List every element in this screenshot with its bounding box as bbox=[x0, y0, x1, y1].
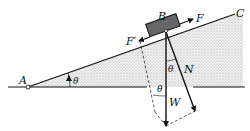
incline-diagram: A C B F F′ N W θ θ θ bbox=[0, 0, 250, 131]
dashed-component-line-3 bbox=[155, 112, 166, 126]
friction-f-prime-arrow-icon bbox=[139, 37, 150, 41]
label-angle-normal: θ bbox=[168, 64, 174, 74]
label-normal-n: N bbox=[183, 63, 194, 76]
label-friction-f-prime: F′ bbox=[125, 35, 137, 48]
label-weight-w: W bbox=[169, 96, 182, 109]
label-angle-base: θ bbox=[73, 76, 79, 86]
label-angle-weight: θ bbox=[157, 84, 163, 94]
label-force-f: F bbox=[195, 12, 204, 25]
angle-arc-weight bbox=[153, 95, 166, 96]
label-block-b: B bbox=[157, 10, 166, 23]
dashed-component-line-2 bbox=[166, 111, 195, 126]
force-f-arrow-icon bbox=[180, 19, 193, 24]
label-point-a: A bbox=[18, 74, 27, 87]
label-point-c: C bbox=[236, 7, 245, 20]
